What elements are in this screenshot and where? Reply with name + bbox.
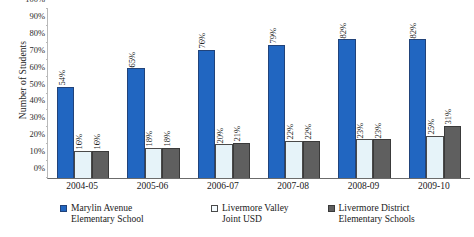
x-axis-category-label: 2007-08 [258,181,328,195]
bar-value-label: 82% [409,23,418,39]
x-axis-category-label: 2006-07 [188,181,258,195]
bar[interactable]: 82% [409,39,426,178]
bar-value-label: 82% [339,23,348,39]
bar-value-label: 21% [233,126,242,142]
y-axis-tick-label: 20% [29,129,45,139]
bar-value-label: 18% [145,131,154,147]
bar-value-label: 54% [57,70,66,86]
bar[interactable]: 18% [145,148,162,178]
y-axis-tick-label: 40% [29,95,45,105]
bar-value-label: 18% [162,131,171,147]
x-axis-category-label: 2009-10 [399,181,469,195]
chart-legend: Marylin Avenue Elementary SchoolLivermor… [60,203,464,225]
bar[interactable]: 22% [303,141,320,178]
bar-group: 54%16%16% [48,9,118,178]
y-axis-title: Number of Students [18,10,28,150]
bar-group: 76%20%21% [189,9,259,178]
y-axis-tick-label: 90% [29,11,45,21]
bar-group-bars: 65%18%18% [118,9,188,178]
legend-swatch-icon [60,205,67,212]
bar[interactable]: 54% [57,87,74,178]
bar-value-label: 22% [286,124,295,140]
bar-value-label: 16% [75,134,84,150]
bar[interactable]: 22% [285,141,302,178]
bar-value-label: 65% [128,52,137,68]
legend-label: Livermore District Elementary Schools [339,203,415,225]
bar[interactable]: 65% [127,68,144,178]
legend-label: Livermore Valley Joint USD [222,203,289,225]
legend-item[interactable]: Livermore Valley Joint USD [211,203,327,225]
legend-swatch-icon [211,205,218,212]
y-axis-tick-label: 60% [29,62,45,72]
bar-group: 82%25%31% [400,9,470,178]
y-axis-tick-label: 30% [29,112,45,122]
bar[interactable]: 23% [356,139,373,178]
bar-value-label: 23% [373,123,382,139]
bar-value-label: 79% [268,28,277,44]
bar-value-label: 23% [356,123,365,139]
bar-value-label: 22% [303,124,312,140]
bar-group: 65%18%18% [118,9,188,178]
bar-group-bars: 76%20%21% [189,9,259,178]
bar[interactable]: 76% [198,50,215,178]
bar[interactable]: 16% [92,151,109,178]
bar-value-label: 31% [444,109,453,125]
bar[interactable]: 31% [444,126,461,178]
bar-group-bars: 82%23%23% [329,9,399,178]
bar-group: 79%22%22% [259,9,329,178]
y-axis-tick-label: 50% [29,79,45,89]
x-axis-category-label: 2004-05 [47,181,117,195]
bar[interactable]: 82% [338,39,355,178]
y-axis-tick-label: 100% [25,0,45,4]
bar-value-label: 20% [215,128,224,144]
legend-swatch-icon [328,205,335,212]
bar-value-label: 76% [198,33,207,49]
bar[interactable]: 20% [215,144,232,178]
bar-chart: Number of Students 0%10%20%30%40%50%60%7… [0,0,474,237]
bar[interactable]: 25% [426,136,443,178]
y-axis-tick-label: 70% [29,45,45,55]
x-axis-labels: 2004-052005-062006-072007-082008-092009-… [47,181,469,195]
bar-group: 82%23%23% [329,9,399,178]
bar-value-label: 16% [92,134,101,150]
bar[interactable]: 18% [162,148,179,178]
bar-group-bars: 79%22%22% [259,9,329,178]
x-axis-category-label: 2008-09 [328,181,398,195]
bar-group-bars: 54%16%16% [48,9,118,178]
legend-item[interactable]: Livermore District Elementary Schools [328,203,464,225]
y-axis-tick-label: 80% [29,28,45,38]
bar[interactable]: 16% [74,151,91,178]
legend-label: Marylin Avenue Elementary School [71,203,144,225]
x-axis-category-label: 2005-06 [117,181,187,195]
legend-item[interactable]: Marylin Avenue Elementary School [60,203,211,225]
bar-value-label: 25% [426,119,435,135]
bar[interactable]: 21% [233,143,250,178]
bar-groups: 54%16%16%65%18%18%76%20%21%79%22%22%82%2… [48,9,470,178]
bar[interactable]: 79% [268,45,285,179]
y-axis-tick-label: 0% [34,163,45,173]
bar-group-bars: 82%25%31% [400,9,470,178]
bar[interactable]: 23% [373,139,390,178]
plot-area: 0%10%20%30%40%50%60%70%80%90%100% 54%16%… [47,9,470,179]
y-axis-tick-label: 10% [29,146,45,156]
